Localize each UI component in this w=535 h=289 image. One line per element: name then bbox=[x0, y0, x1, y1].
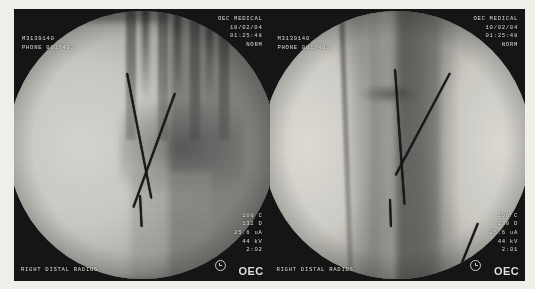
patient-id: M3139140 bbox=[22, 35, 54, 42]
param-voltage: 44 kV bbox=[498, 238, 518, 245]
study-date: 10/02/04 bbox=[230, 24, 262, 31]
patient-id: M3139140 bbox=[278, 35, 310, 42]
param-dose: 100 C bbox=[242, 212, 262, 219]
clock-row-left bbox=[215, 260, 226, 271]
clock-icon bbox=[215, 260, 226, 271]
fracture-line bbox=[354, 81, 424, 108]
fluoroscopy-panel-right: OEC MEDICAL10/02/0401:25:48NORM M3139140… bbox=[270, 9, 526, 281]
param-rate: 132 D bbox=[242, 220, 262, 227]
acquisition-mode: NORM bbox=[502, 41, 518, 48]
overlay-header-left: OEC MEDICAL10/02/0401:25:48NORM bbox=[218, 15, 263, 50]
param-dose: 196 C bbox=[498, 212, 518, 219]
patient-secondary-id: PHONE 0017402 bbox=[22, 44, 75, 51]
overlay-params-right: 196 C130 D26.6 uA44 kV2:01 bbox=[490, 212, 518, 255]
overlay-header-right: OEC MEDICAL10/02/0401:25:48NORM bbox=[473, 15, 518, 50]
acquisition-mode: NORM bbox=[246, 41, 262, 48]
overlay-region-right: RIGHT DISTAL RADIUS bbox=[277, 266, 354, 275]
overlay-patient-right: M3139140PHONE 0017402 bbox=[278, 35, 331, 52]
patient-secondary-id: PHONE 0017402 bbox=[278, 44, 331, 51]
clock-row-right bbox=[470, 260, 481, 271]
study-time: 01:25:48 bbox=[486, 32, 518, 39]
param-magnification: 2:01 bbox=[502, 246, 518, 253]
param-rate: 130 D bbox=[498, 220, 518, 227]
vendor-label: OEC MEDICAL bbox=[218, 15, 263, 22]
oec-logo-left: OEC bbox=[238, 265, 263, 277]
interosseous-gap bbox=[142, 11, 149, 102]
overlay-region-left: RIGHT DISTAL RADIUS bbox=[21, 266, 98, 275]
clock-icon bbox=[470, 260, 481, 271]
param-magnification: 2:02 bbox=[246, 246, 262, 253]
overlay-params-left: 100 C132 D25.6 uA44 kV2:02 bbox=[234, 212, 262, 255]
param-current: 26.6 uA bbox=[490, 229, 518, 236]
vendor-label: OEC MEDICAL bbox=[473, 15, 518, 22]
study-date: 10/02/04 bbox=[486, 24, 518, 31]
ulnar-shadow bbox=[397, 11, 456, 279]
study-time: 01:25:48 bbox=[230, 32, 262, 39]
radius-shaft-left bbox=[131, 172, 211, 279]
interosseous-gap bbox=[206, 11, 213, 102]
screenshot-root: OEC MEDICAL10/02/0401:25:48NORM M3139140… bbox=[0, 0, 535, 289]
param-voltage: 44 kV bbox=[242, 238, 262, 245]
fluoroscopy-panel-left: OEC MEDICAL10/02/0401:25:48NORM M3139140… bbox=[14, 9, 270, 281]
interosseous-gap bbox=[174, 11, 181, 102]
oec-logo-right: OEC bbox=[494, 265, 519, 277]
overlay-patient-left: M3139140PHONE 0017402 bbox=[22, 35, 75, 52]
radiograph-photo: OEC MEDICAL10/02/0401:25:48NORM M3139140… bbox=[14, 9, 525, 281]
param-current: 25.6 uA bbox=[234, 229, 262, 236]
